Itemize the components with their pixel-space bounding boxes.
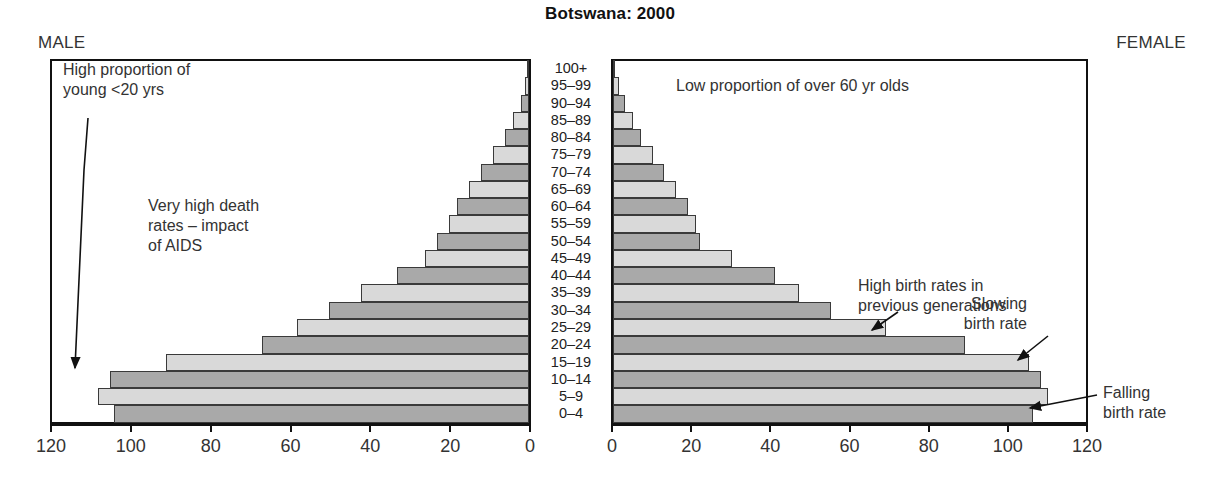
male-bar-90-94 <box>521 95 529 112</box>
male-bar-20-24 <box>262 336 529 353</box>
female-bar-70-74 <box>613 164 664 181</box>
annotation-low-proportion-old: Low proportion of over 60 yr olds <box>676 76 909 96</box>
axis-tick <box>130 424 132 432</box>
female-bar-35-39 <box>613 284 799 301</box>
male-bar-75-79 <box>493 146 529 163</box>
age-group-label: 55–59 <box>531 215 611 232</box>
female-bar-100+ <box>613 60 615 77</box>
axis-tick-label: 80 <box>919 436 939 457</box>
axis-tick-label: 60 <box>839 436 859 457</box>
axis-tick-label: 40 <box>760 436 780 457</box>
bar-row <box>613 129 1088 146</box>
bar-row <box>613 371 1088 388</box>
female-bar-90-94 <box>613 95 625 112</box>
female-bar-55-59 <box>613 215 696 232</box>
bar-row <box>50 112 529 129</box>
axis-tick-label: 80 <box>201 436 221 457</box>
female-bar-25-29 <box>613 319 886 336</box>
female-bar-50-54 <box>613 233 700 250</box>
age-group-label: 45–49 <box>531 250 611 267</box>
axis-tick <box>50 424 52 432</box>
axis-tick-label: 20 <box>681 436 701 457</box>
axis-tick <box>1007 424 1009 432</box>
male-bar-95-99 <box>525 77 529 94</box>
age-group-label: 100+ <box>531 60 611 77</box>
bar-row <box>50 233 529 250</box>
age-group-label: 75–79 <box>531 146 611 163</box>
bar-row <box>50 371 529 388</box>
age-group-label: 50–54 <box>531 233 611 250</box>
bar-row <box>50 354 529 371</box>
axis-tick <box>210 424 212 432</box>
bar-row <box>50 129 529 146</box>
age-group-label: 60–64 <box>531 198 611 215</box>
annotation-aids-death-rates: Very high death rates – impact of AIDS <box>148 196 259 256</box>
bar-row <box>50 302 529 319</box>
bar-row <box>613 95 1088 112</box>
female-bar-20-24 <box>613 336 965 353</box>
female-bar-30-34 <box>613 302 831 319</box>
bar-row <box>613 215 1088 232</box>
axis-tick <box>1086 424 1088 432</box>
age-group-label: 80–84 <box>531 129 611 146</box>
bar-row <box>50 181 529 198</box>
male-bar-40-44 <box>397 267 529 284</box>
bar-row <box>50 405 529 422</box>
male-bar-10-14 <box>110 371 529 388</box>
age-group-label: 65–69 <box>531 181 611 198</box>
female-bar-65-69 <box>613 181 676 198</box>
female-bar-80-84 <box>613 129 641 146</box>
bar-row <box>50 336 529 353</box>
bar-row <box>50 267 529 284</box>
female-bar-60-64 <box>613 198 688 215</box>
axis-tick-label: 0 <box>525 436 535 457</box>
age-group-label: 0–4 <box>531 405 611 422</box>
bar-row <box>613 388 1088 405</box>
bar-row <box>50 198 529 215</box>
bar-row <box>613 354 1088 371</box>
male-bar-70-74 <box>481 164 529 181</box>
male-bar-30-34 <box>329 302 529 319</box>
bar-row <box>613 198 1088 215</box>
female-bar-45-49 <box>613 250 732 267</box>
bar-row <box>613 146 1088 163</box>
age-group-label: 90–94 <box>531 95 611 112</box>
bar-row <box>50 319 529 336</box>
age-group-label: 20–24 <box>531 336 611 353</box>
male-bar-100+ <box>527 60 529 77</box>
population-pyramid-figure: Botswana: 2000 MALE FEMALE 100+95–9990–9… <box>0 0 1220 486</box>
axis-tick <box>849 424 851 432</box>
age-group-label: 95–99 <box>531 77 611 94</box>
male-bar-25-29 <box>297 319 529 336</box>
bar-row <box>613 405 1088 422</box>
axis-tick-label: 100 <box>116 436 146 457</box>
annotation-slowing-birth-rate: Slowing birth rate <box>964 294 1027 334</box>
axis-tick <box>690 424 692 432</box>
age-group-label: 85–89 <box>531 112 611 129</box>
female-bar-group <box>613 60 1088 423</box>
bar-row <box>613 164 1088 181</box>
bar-row <box>613 267 1088 284</box>
female-bar-85-89 <box>613 112 633 129</box>
bar-row <box>613 336 1088 353</box>
bar-row <box>50 215 529 232</box>
axis-tick <box>529 424 531 432</box>
axis-tick-label: 60 <box>280 436 300 457</box>
bar-row <box>50 164 529 181</box>
female-bar-5-9 <box>613 388 1048 405</box>
male-bar-15-19 <box>166 354 529 371</box>
male-bar-0-4 <box>114 405 529 422</box>
male-bar-60-64 <box>457 198 529 215</box>
male-bar-50-54 <box>437 233 529 250</box>
axis-tick-label: 20 <box>440 436 460 457</box>
bar-row <box>50 146 529 163</box>
bar-row <box>613 233 1088 250</box>
male-panel-label: MALE <box>38 33 86 53</box>
female-panel-label: FEMALE <box>1116 33 1186 53</box>
axis-tick <box>290 424 292 432</box>
age-group-label: 40–44 <box>531 267 611 284</box>
page-title: Botswana: 2000 <box>0 4 1220 24</box>
male-bar-5-9 <box>98 388 529 405</box>
female-bar-0-4 <box>613 405 1033 422</box>
female-bar-95-99 <box>613 77 619 94</box>
